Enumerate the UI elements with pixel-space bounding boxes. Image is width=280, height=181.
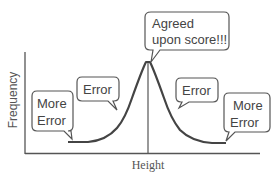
callout-peak-line1: Agreed xyxy=(152,16,194,31)
callout-left-more-error-line2: Error xyxy=(37,113,67,128)
callout-right-more-error-line2: Error xyxy=(230,115,260,130)
callout-peak-line2: upon score!!! xyxy=(152,32,227,47)
callout-left-more-error-line1: More xyxy=(37,96,67,111)
x-axis-label: Height xyxy=(132,158,165,172)
callout-left-error-text: Error xyxy=(83,82,113,97)
callout-left-error: Error xyxy=(77,77,119,110)
callout-left-more-error: More Error xyxy=(32,91,73,139)
y-axis-label: Frequency xyxy=(6,72,20,129)
callout-right-error: Error xyxy=(176,78,218,108)
callout-right-more-error-line1: More xyxy=(233,98,263,113)
callout-right-error-text: Error xyxy=(182,83,212,98)
callout-right-more-error: More Error xyxy=(224,93,270,141)
callout-peak: Agreed upon score!!! xyxy=(145,12,229,62)
bell-curve-diagram: Agreed upon score!!! Error More Error Er… xyxy=(0,0,280,181)
